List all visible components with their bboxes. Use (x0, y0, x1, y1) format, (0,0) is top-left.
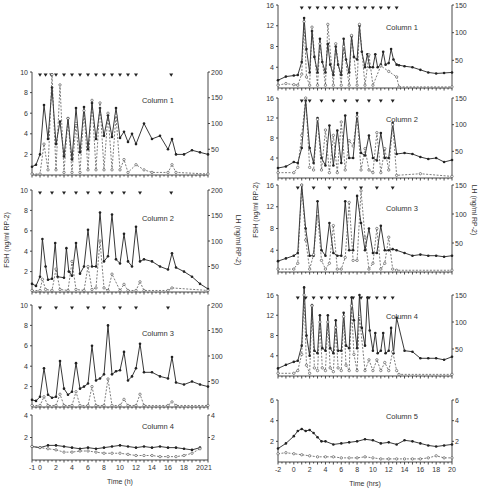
fsh-data-point (348, 157, 351, 160)
fsh-data-point (159, 265, 162, 268)
lh-data-point (167, 455, 169, 457)
fsh-data-point (372, 157, 375, 160)
lh-data-point (372, 369, 374, 371)
fsh-data-point (427, 254, 430, 257)
fsh-data-point (191, 275, 194, 278)
stimulus-marker-icon (138, 192, 142, 195)
stimulus-marker-icon (296, 297, 300, 300)
lh-data-point (95, 404, 97, 406)
lh-data-point (67, 117, 69, 119)
lh-data-point (376, 131, 378, 133)
fsh-data-point (296, 360, 299, 363)
fsh-data-point (293, 161, 296, 164)
fsh-data-point (277, 447, 280, 450)
fsh-data-point (199, 283, 202, 286)
fsh-data-point (368, 227, 371, 230)
lh-data-point (308, 84, 310, 86)
fsh-data-point (356, 112, 359, 115)
fsh-data-point (167, 268, 170, 271)
lh-data-point (391, 351, 393, 353)
lh-data-point (277, 372, 279, 374)
stimulus-marker-icon (74, 192, 78, 195)
lh-data-point (451, 457, 453, 459)
fsh-data-point (376, 66, 379, 69)
stimulus-marker-icon (296, 187, 300, 190)
lh-data-point (308, 166, 310, 168)
lh-data-point (39, 289, 41, 291)
lh-data-point (304, 239, 306, 241)
lh-data-point (324, 369, 326, 371)
lh-data-point (356, 369, 358, 371)
fsh-data-point (395, 153, 398, 156)
fsh-data-point (183, 153, 186, 156)
fsh-data-point (143, 371, 146, 374)
lh-data-point (91, 288, 93, 290)
lh-data-point (368, 169, 370, 171)
x-tick-label: 21 (204, 464, 212, 471)
left-tick-label: 4 (24, 363, 28, 370)
fsh-data-point (44, 265, 47, 268)
lh-data-point (360, 190, 362, 192)
lh-data-point (388, 236, 390, 238)
stimulus-marker-icon (134, 74, 138, 77)
panel-title: Column 4 (142, 422, 174, 431)
left-tick-label: 6 (24, 227, 28, 234)
lh-data-point (175, 404, 177, 406)
lh-data-point (71, 260, 73, 262)
lh-data-point (388, 369, 390, 371)
fsh-data-point (71, 274, 74, 277)
fsh-data-point (435, 445, 438, 448)
lh-data-point (135, 289, 137, 291)
fsh-data-point (382, 50, 385, 53)
lh-data-point (316, 369, 318, 371)
fsh-data-point (51, 397, 54, 400)
fsh-data-point (103, 373, 106, 376)
fsh-data-point (159, 375, 162, 378)
fsh-data-point (427, 158, 430, 161)
fsh-data-point (411, 440, 414, 443)
fsh-series-line (32, 87, 208, 166)
left-tick-label: 10 (20, 302, 28, 309)
left-tick-label: 12 (266, 115, 274, 122)
lh-data-point (87, 450, 89, 452)
x-tick-label: 14 (401, 466, 409, 473)
fsh-data-point (303, 17, 306, 20)
lh-data-point (324, 129, 326, 131)
fsh-data-point (395, 63, 398, 66)
stimulus-marker-icon (44, 74, 48, 77)
lh-data-point (167, 171, 169, 173)
fsh-data-point (183, 447, 186, 450)
lh-data-point (285, 82, 287, 84)
fsh-data-point (43, 367, 46, 370)
fsh-data-point (207, 153, 210, 156)
lh-data-point (312, 169, 314, 171)
fsh-data-point (285, 442, 288, 445)
lh-data-point (435, 455, 437, 457)
lh-data-point (55, 268, 57, 270)
lh-data-point (329, 367, 331, 369)
right-tick-label: 200 (211, 69, 223, 76)
fsh-data-point (300, 61, 303, 64)
stimulus-marker-icon (308, 100, 312, 103)
panel-title: Column 2 (142, 214, 174, 223)
lh-data-point (175, 171, 177, 173)
lh-data-point (79, 404, 81, 406)
left-tick-label: 10 (20, 69, 28, 76)
lh-data-point (337, 367, 339, 369)
left-tick-label: 4 (24, 130, 28, 137)
fsh-data-point (47, 393, 50, 396)
left-tick-label: 4 (270, 247, 274, 254)
lh-data-point (316, 118, 318, 120)
fsh-data-point (183, 270, 186, 273)
fsh-data-point (427, 71, 430, 74)
lh-data-point (332, 224, 334, 226)
fsh-data-point (135, 143, 138, 146)
right-tick-label: 100 (211, 353, 223, 360)
fsh-data-point (364, 249, 367, 252)
lh-data-point (380, 268, 382, 270)
fsh-data-point (356, 440, 359, 443)
lh-data-point (301, 134, 303, 136)
lh-data-point (293, 453, 295, 455)
stimulus-marker-icon (316, 7, 320, 10)
lh-data-point (31, 173, 33, 175)
